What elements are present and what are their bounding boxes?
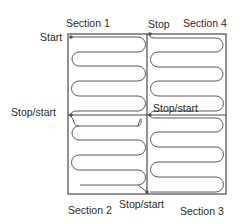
- stop-dot: [148, 32, 152, 36]
- start-label: Start: [40, 32, 62, 43]
- left-middle-dot: [69, 113, 73, 117]
- section-1-label: Section 1: [66, 18, 110, 29]
- cable-layout-diagram: Section 1 Stop Section 4 Start Stop/star…: [0, 0, 244, 224]
- bottom-middle-dot: [145, 190, 149, 194]
- section-2-label: Section 2: [68, 205, 112, 216]
- stop-start-bottom-label: Stop/start: [119, 199, 164, 210]
- center-dot: [148, 113, 152, 117]
- section-2-cable: [71, 115, 147, 192]
- start-dot: [69, 35, 73, 39]
- stop-label: Stop: [148, 19, 170, 30]
- section-3-cable: [150, 115, 224, 192]
- stop-start-left-label: Stop/start: [11, 107, 56, 118]
- section-3-label: Section 3: [180, 206, 224, 217]
- stop-start-center-label: Stop/start: [153, 103, 198, 114]
- section-1-cable: [71, 37, 146, 115]
- section-4-label: Section 4: [183, 18, 227, 29]
